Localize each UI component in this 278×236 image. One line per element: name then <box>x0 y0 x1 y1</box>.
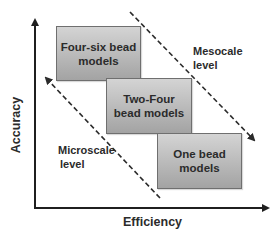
y-axis-label: Accuracy <box>9 95 23 155</box>
mesoscale-label-line2: level <box>193 58 243 72</box>
box-one-bead-models: One bead models <box>157 133 242 189</box>
diagram-canvas: Four-six bead models Two-Four bead model… <box>0 0 278 236</box>
mesoscale-label-line1: Mesocale <box>193 44 243 58</box>
mesoscale-label: Mesocale level <box>193 44 243 72</box>
x-axis-label: Efficiency <box>123 215 182 229</box>
microscale-label-line2: level <box>58 157 115 171</box>
box-label-line2: models <box>61 54 136 68</box>
box-label-line1: Two-Four <box>114 92 184 106</box>
microscale-label-line1: Microscale <box>58 143 115 157</box>
box-label-line2: models <box>173 161 225 175</box>
box-label-line1: Four-six bead <box>61 40 136 54</box>
microscale-label: Microscale level <box>58 143 115 171</box>
box-label-line1: One bead <box>173 147 225 161</box>
box-two-four-bead-models: Two-Four bead models <box>106 78 192 134</box>
box-label-line2: bead models <box>114 106 184 120</box>
box-four-six-bead-models: Four-six bead models <box>56 26 141 81</box>
